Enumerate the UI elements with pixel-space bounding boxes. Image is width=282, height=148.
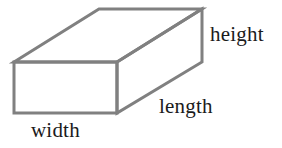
label-width: width (31, 120, 80, 141)
rectangular-prism-figure: height length width (0, 0, 282, 148)
label-length: length (159, 96, 213, 117)
edge-top-face (14, 9, 202, 62)
edge-front-face (14, 62, 117, 113)
label-height: height (210, 24, 264, 45)
